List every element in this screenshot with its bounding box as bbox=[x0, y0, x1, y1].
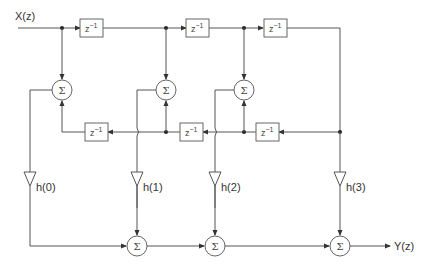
adder-bottom-3: Σ bbox=[330, 236, 350, 256]
bottom-delay-2: z−1 bbox=[180, 123, 203, 141]
output-label: Y(z) bbox=[394, 240, 414, 252]
gain-h1: h(1) bbox=[131, 172, 163, 193]
svg-text:h(0): h(0) bbox=[36, 181, 56, 193]
bottom-delay-1: z−1 bbox=[85, 123, 108, 141]
svg-text:h(2): h(2) bbox=[221, 181, 241, 193]
adder-middle-3: Σ bbox=[234, 80, 254, 100]
top-delay-2: z−1 bbox=[186, 19, 209, 37]
svg-text:Σ: Σ bbox=[162, 85, 169, 96]
adder-bottom-2: Σ bbox=[205, 236, 225, 256]
svg-text:h(3): h(3) bbox=[346, 181, 366, 193]
top-delay-3: z−1 bbox=[264, 19, 287, 37]
input-label: X(z) bbox=[15, 10, 35, 22]
adder-middle-2: Σ bbox=[156, 80, 176, 100]
svg-text:Σ: Σ bbox=[240, 85, 247, 96]
top-wire-4 bbox=[287, 28, 340, 132]
adder-bottom-1: Σ bbox=[127, 236, 147, 256]
bottom-delay-3: z−1 bbox=[256, 123, 279, 141]
wire bbox=[62, 101, 85, 132]
svg-text:Σ: Σ bbox=[133, 241, 140, 252]
svg-text:Σ: Σ bbox=[58, 85, 65, 96]
gain-h2: h(2) bbox=[209, 172, 241, 193]
svg-text:h(1): h(1) bbox=[143, 181, 163, 193]
fir-filter-diagram: X(z) z−1 z−1 z−1 Σ Σ Σ z−1 bbox=[0, 0, 428, 270]
adder-middle-1: Σ bbox=[52, 80, 72, 100]
svg-text:Σ: Σ bbox=[211, 241, 218, 252]
wire bbox=[30, 90, 52, 172]
gain-h0: h(0) bbox=[24, 172, 56, 193]
gain-h3: h(3) bbox=[334, 172, 366, 193]
wire bbox=[30, 186, 126, 246]
svg-text:Σ: Σ bbox=[336, 241, 343, 252]
top-delay-1: z−1 bbox=[80, 19, 103, 37]
